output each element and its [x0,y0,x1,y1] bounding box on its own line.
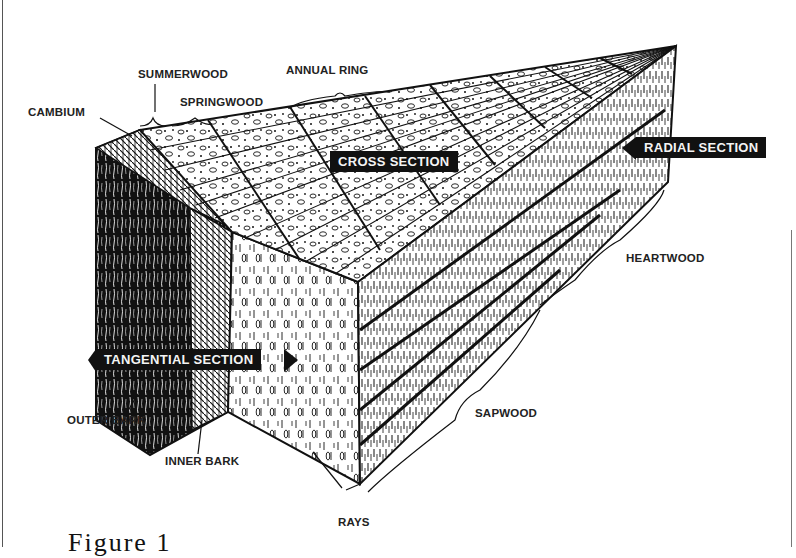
tag-cross-section: CROSS SECTION [330,151,458,172]
label-sapwood: SAPWOOD [475,407,537,419]
label-inner-bark: INNER BARK [165,455,239,467]
figure-caption: Figure 1 [68,528,171,558]
label-outer-bark: OUTER BARK [67,414,146,426]
label-springwood: SPRINGWOOD [180,96,263,108]
label-rays: RAYS [338,516,370,528]
label-summerwood: SUMMERWOOD [138,68,228,80]
tag-tangential-section: TANGENTIAL SECTION [96,349,261,370]
tag-radial-section: RADIAL SECTION [636,137,766,158]
label-cambium: CAMBIUM [28,106,85,118]
inner-bark-face [190,208,232,430]
label-heartwood: HEARTWOOD [626,252,704,264]
label-annual-ring: ANNUAL RING [286,64,369,76]
